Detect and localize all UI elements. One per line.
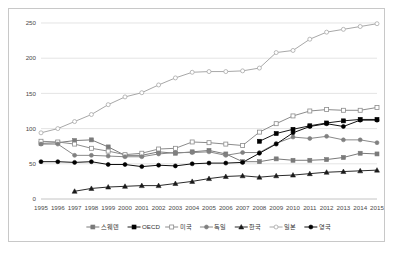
legend-item-3[interactable]: 독일 (200, 223, 227, 231)
data-point (375, 22, 379, 26)
legend-item-2[interactable]: 미국 (165, 223, 192, 231)
data-point (358, 25, 362, 29)
y-tick-150: 150 (26, 90, 37, 97)
x-tick-1999: 1999 (101, 204, 115, 211)
data-point (291, 135, 295, 139)
data-point (207, 70, 211, 74)
data-point (190, 140, 194, 144)
data-point (358, 118, 362, 122)
data-point (257, 139, 261, 143)
series-line (75, 170, 377, 191)
legend-marker-filled-circle-icon (309, 225, 313, 229)
data-point (358, 108, 362, 112)
data-point (73, 120, 77, 124)
data-point (341, 155, 345, 159)
data-point (308, 124, 312, 128)
data-point (207, 161, 211, 165)
legend-item-5[interactable]: 일본 (270, 223, 297, 230)
y-tick-250: 250 (26, 19, 37, 26)
data-point (56, 142, 60, 146)
legend-label: 스웨덴 (101, 223, 119, 231)
legend-item-4[interactable]: 한국 (235, 223, 262, 231)
x-tick-2000: 2000 (118, 204, 132, 211)
data-point (73, 153, 77, 157)
chart-series-layer (39, 22, 380, 194)
data-point (106, 145, 110, 149)
legend-marker-open-square-icon (170, 225, 174, 229)
data-point (375, 141, 379, 145)
x-tick-2004: 2004 (185, 204, 199, 211)
data-point (123, 163, 127, 167)
x-tick-2014: 2014 (353, 204, 367, 211)
data-point (190, 70, 194, 74)
data-point (274, 157, 278, 161)
x-tick-2010: 2010 (286, 204, 300, 211)
data-point (291, 131, 295, 135)
legend-item-1[interactable]: OECD (128, 223, 161, 230)
legend-label: 한국 (249, 223, 261, 231)
data-point (106, 154, 110, 158)
data-point (375, 152, 379, 156)
data-point (39, 131, 43, 135)
legend-marker-open-circle-icon (274, 225, 278, 229)
chart-container: 050100150200250 199519961997199819992000… (8, 8, 385, 242)
data-point (241, 160, 245, 164)
data-point (123, 155, 127, 159)
legend-marker-filled-square-icon (132, 225, 136, 229)
x-tick-1998: 1998 (85, 204, 99, 211)
legend-marker-filled-square-icon (91, 225, 95, 229)
x-tick-2001: 2001 (135, 204, 149, 211)
data-point (224, 142, 228, 146)
x-tick-2012: 2012 (320, 204, 334, 211)
legend-item-0[interactable]: 스웨덴 (86, 223, 119, 231)
data-point (274, 51, 278, 55)
data-point (224, 70, 228, 74)
data-point (308, 158, 312, 162)
data-point (325, 108, 329, 112)
data-point (291, 48, 295, 52)
data-point (157, 83, 161, 87)
data-point (106, 103, 110, 107)
data-point (358, 138, 362, 142)
data-point (173, 164, 177, 168)
y-tick-200: 200 (26, 54, 37, 61)
legend-label: 일본 (284, 223, 296, 230)
data-point (308, 37, 312, 41)
data-point (140, 155, 144, 159)
data-point (241, 69, 245, 73)
data-point (241, 143, 245, 147)
series-4 (72, 168, 379, 194)
x-tick-2003: 2003 (169, 204, 183, 211)
data-point (358, 151, 362, 155)
chart-legend: 스웨덴OECD미국독일한국일본영국 (86, 223, 331, 231)
x-tick-2005: 2005 (202, 204, 216, 211)
data-point (207, 141, 211, 145)
data-point (157, 152, 161, 156)
data-point (274, 132, 278, 136)
x-tick-2009: 2009 (269, 204, 283, 211)
y-tick-0: 0 (33, 195, 37, 202)
data-point (73, 160, 77, 164)
legend-label: 미국 (180, 223, 192, 231)
data-point (89, 146, 93, 150)
legend-item-6[interactable]: 영국 (304, 223, 331, 231)
data-point (89, 160, 93, 164)
data-point (89, 113, 93, 117)
data-point (173, 76, 177, 80)
x-tick-2008: 2008 (253, 204, 267, 211)
data-point (207, 150, 211, 154)
x-tick-2007: 2007 (236, 204, 250, 211)
x-tick-2002: 2002 (152, 204, 166, 211)
data-point (341, 108, 345, 112)
data-point (257, 160, 261, 164)
y-tick-50: 50 (29, 160, 36, 167)
data-point (190, 151, 194, 155)
x-tick-2011: 2011 (303, 204, 317, 211)
x-tick-1995: 1995 (34, 204, 48, 211)
data-point (291, 114, 295, 118)
series-5 (39, 22, 379, 135)
x-tick-1996: 1996 (51, 204, 65, 211)
data-point (224, 153, 228, 157)
y-tick-100: 100 (26, 125, 37, 132)
data-point (140, 165, 144, 169)
